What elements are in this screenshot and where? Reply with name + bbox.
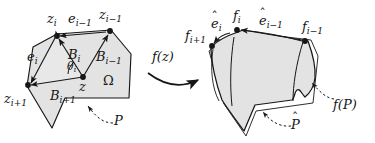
label-bisector-B-i-plus-1: Bi+1 bbox=[50, 89, 76, 102]
conformal-map-figure: zi zi−1 zi+1 z ei ei−1 Bi Bi−1 Bi+1 θi Ω… bbox=[0, 0, 375, 143]
label-edge-e-i: ei bbox=[27, 50, 38, 63]
label-polygon-P: P bbox=[114, 114, 123, 127]
image-region-f-P bbox=[211, 30, 315, 131]
vertex-dot-z-i-plus-1 bbox=[25, 82, 31, 88]
label-vertex-f-i: fi bbox=[233, 9, 241, 22]
label-vertex-f-i-plus-1: fi+1 bbox=[185, 29, 206, 42]
hat-accent-e-i: ˆ bbox=[211, 11, 217, 23]
label-angle-theta-i: θi bbox=[67, 61, 76, 72]
label-vertex-z-i-plus-1: zi+1 bbox=[4, 92, 27, 105]
vertex-dot-f-i bbox=[234, 27, 240, 33]
label-edge-e-i-minus-1: ei−1 bbox=[68, 12, 92, 25]
hat-accent-e-i-minus-1: ˆ bbox=[259, 8, 265, 20]
label-vertex-z-i-minus-1: zi−1 bbox=[99, 8, 122, 21]
pointer-P-dashed bbox=[88, 106, 113, 123]
label-edge-hat-e-i-minus-1: ˆei−1 bbox=[259, 14, 283, 27]
label-vertex-f-i-minus-1: fi−1 bbox=[302, 20, 323, 33]
vertex-dot-z-i-minus-1 bbox=[107, 28, 113, 34]
vertex-dot-f-i-minus-1 bbox=[302, 38, 308, 44]
label-image-f-P: f(P) bbox=[333, 98, 357, 111]
label-edge-hat-e-i: ˆei bbox=[211, 17, 222, 30]
label-point-z: z bbox=[79, 80, 86, 93]
hat-accent-P: ˆ bbox=[292, 112, 298, 124]
map-arrow-group bbox=[148, 73, 198, 85]
pointer-hat-P-dashed bbox=[263, 112, 291, 126]
label-hat-P: ˆP bbox=[291, 118, 300, 131]
label-bisector-B-i-minus-1: Bi−1 bbox=[96, 50, 122, 63]
label-map-f-z: f(z) bbox=[152, 50, 174, 63]
label-vertex-z-i: zi bbox=[47, 12, 57, 25]
vertex-dot-f-i-plus-1 bbox=[209, 43, 215, 49]
map-arrow-curve bbox=[148, 73, 198, 85]
label-region-omega: Ω bbox=[103, 74, 114, 87]
target-polygon-group bbox=[209, 27, 334, 136]
vertex-dot-z-i bbox=[54, 33, 60, 39]
